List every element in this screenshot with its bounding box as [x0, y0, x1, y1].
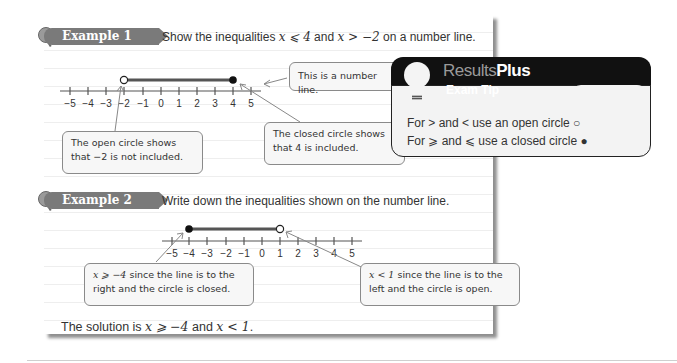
- callout-x-ge-minus-4: x ⩾ −4 since the line is to the right an…: [84, 263, 254, 306]
- solution-text: The solution is: [61, 320, 145, 334]
- solution-inequality-2: x < 1: [216, 319, 249, 334]
- svg-text:−4: −4: [82, 98, 94, 109]
- svg-text:−3: −3: [201, 248, 213, 259]
- callout-text: The closed circle shows: [273, 127, 396, 141]
- closed-circle-marker: [229, 76, 237, 84]
- callout-text: left and the circle is open.: [369, 282, 511, 296]
- solution-statement: The solution is x ⩾ −4 and x < 1.: [61, 319, 253, 334]
- example-2-tab: Example 2: [44, 192, 159, 209]
- prompt-text: Write down the inequalities shown on the…: [162, 194, 449, 208]
- callout-x-lt-1: x < 1 since the line is to the left and …: [360, 263, 520, 306]
- example-2-label: Example 2: [62, 193, 132, 207]
- svg-text:3: 3: [313, 248, 319, 259]
- solution-text: and: [189, 320, 217, 334]
- callout-number-line: This is a number line.: [289, 62, 402, 91]
- svg-text:−2: −2: [118, 98, 130, 109]
- svg-text:2: 2: [194, 98, 200, 109]
- svg-text:−1: −1: [137, 98, 149, 109]
- svg-text:−4: −4: [183, 248, 195, 259]
- callout-open-circle: The open circle shows that −2 is not inc…: [62, 131, 203, 174]
- svg-text:0: 0: [259, 248, 265, 259]
- callout-text: since the line is to the: [394, 269, 502, 280]
- lightbulb-icon-neck: [410, 85, 424, 95]
- svg-text:−2: −2: [220, 248, 232, 259]
- svg-text:−5: −5: [64, 98, 76, 109]
- example-1-number-line: −5−4−3 −2−10 123 45 −5−4−3 −2−10 123 45: [0, 0, 677, 363]
- callout-text: since the line is to the: [126, 269, 234, 280]
- svg-text:2: 2: [295, 248, 301, 259]
- callout-text: right and the circle is closed.: [93, 282, 245, 296]
- exam-tip-box: ResultsPlus Exam Tip For > and < use an …: [391, 57, 651, 156]
- exam-tip-title: Exam Tip: [446, 83, 499, 97]
- callout-closed-circle: The closed circle shows that 4 is includ…: [264, 122, 405, 165]
- solution-text: .: [250, 320, 253, 334]
- lightbulb-icon-base: [412, 95, 422, 100]
- svg-text:0: 0: [158, 98, 164, 109]
- example-2-prompt: Write down the inequalities shown on the…: [162, 194, 449, 208]
- exam-tip-wedge: [571, 85, 649, 103]
- svg-text:5: 5: [248, 98, 254, 109]
- callout-text: that 4 is included.: [273, 141, 396, 155]
- svg-text:4: 4: [230, 98, 236, 109]
- callout-text: The open circle shows: [71, 136, 194, 150]
- exam-tip-line-1: For > and < use an open circle ○: [407, 116, 580, 130]
- callout-math: x < 1: [369, 269, 394, 280]
- open-circle-marker: [120, 76, 127, 83]
- resultsplus-logo: ResultsPlus: [443, 61, 530, 81]
- svg-text:1: 1: [176, 98, 182, 109]
- callout-text: that −2 is not included.: [71, 150, 194, 164]
- open-circle-marker: [276, 225, 283, 232]
- exam-tip-line-2: For ⩾ and ⩽ use a closed circle ●: [407, 134, 588, 148]
- logo-plus: Plus: [496, 61, 530, 80]
- svg-text:3: 3: [212, 98, 218, 109]
- svg-text:1: 1: [277, 248, 283, 259]
- svg-text:5: 5: [349, 248, 355, 259]
- logo-results: Results: [443, 61, 496, 80]
- svg-text:−3: −3: [100, 98, 112, 109]
- callout-math: x ⩾ −4: [93, 269, 126, 280]
- closed-circle-marker: [185, 225, 193, 233]
- svg-text:−1: −1: [238, 248, 250, 259]
- solution-inequality-1: x ⩾ −4: [145, 319, 188, 334]
